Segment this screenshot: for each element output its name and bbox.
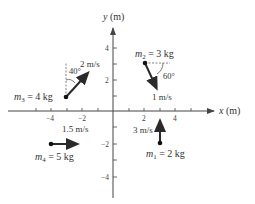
mass-m2: 60° 1 m/s m2 = 3 kg xyxy=(135,48,175,102)
velocity-arrow-icon xyxy=(145,63,156,87)
speed-label: 1 m/s xyxy=(152,92,172,102)
mass-dot-icon xyxy=(64,95,69,100)
velocity-arrow-icon xyxy=(66,74,87,97)
y-axis-label: y (m) xyxy=(102,11,124,23)
x-tick-label: −4 xyxy=(46,114,54,123)
angle-arc-icon xyxy=(66,79,75,83)
mass-dot-icon xyxy=(49,142,54,147)
mass-label: m1 = 2 kg xyxy=(146,148,185,161)
y-tick-label: −2 xyxy=(101,140,109,149)
mass-m3: 40° 2 m/s m3 = 4 kg xyxy=(14,59,100,104)
mass-dot-icon xyxy=(158,141,163,146)
speed-label: 2 m/s xyxy=(80,59,100,69)
physics-diagram: x (m) y (m) −4 −2 2 4 4 2 −2 −4 xyxy=(0,0,255,204)
mass-label: m3 = 4 kg xyxy=(14,91,53,104)
y-axis: y (m) xyxy=(102,11,124,198)
y-ticks xyxy=(113,48,117,177)
x-tick-label: 2 xyxy=(142,114,146,123)
x-axis-label: x (m) xyxy=(218,105,240,117)
mass-dot-icon xyxy=(143,61,148,66)
speed-label: 1.5 m/s xyxy=(62,124,89,134)
y-tick-label: −4 xyxy=(101,173,109,182)
mass-label: m2 = 3 kg xyxy=(135,48,174,61)
y-tick-label: 2 xyxy=(105,76,109,85)
speed-label: 3 m/s xyxy=(133,125,153,135)
angle-label: 60° xyxy=(163,71,175,81)
mass-m4: 1.5 m/s m4 = 5 kg xyxy=(35,124,89,164)
y-tick-label: 4 xyxy=(105,44,109,53)
x-tick-label: 4 xyxy=(173,114,177,123)
x-axis: x (m) xyxy=(8,105,240,117)
mass-m1: 3 m/s m1 = 2 kg xyxy=(133,122,185,161)
x-tick-label: −2 xyxy=(78,114,86,123)
mass-label: m4 = 5 kg xyxy=(35,151,74,164)
